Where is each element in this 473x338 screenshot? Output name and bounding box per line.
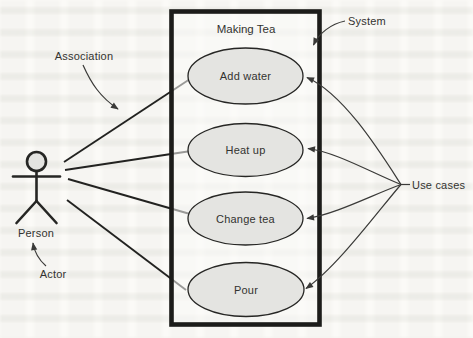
- system-annotation-label: System: [348, 15, 386, 27]
- association-annotation-label: Association: [55, 50, 113, 62]
- use-case-change-tea: Change tea: [188, 192, 303, 245]
- actor-head: [27, 152, 46, 171]
- actor-figure: [13, 152, 60, 223]
- use-case-label-heat-up: Heat up: [226, 144, 266, 156]
- actor-annotation-label: Actor: [40, 268, 67, 280]
- actor-right-leg: [37, 201, 57, 223]
- use-case-add-water: Add water: [188, 48, 303, 104]
- system-title: Making Tea: [217, 23, 276, 35]
- scanned-page: Making Tea Add water Heat up Change tea …: [0, 0, 473, 338]
- association-line-pour: [67, 200, 186, 290]
- association-annotation-arrow: [83, 65, 118, 109]
- use-cases-arrow-heat-up: [308, 149, 401, 185]
- use-cases-annotation-label: Use cases: [412, 179, 465, 191]
- use-case-label-add-water: Add water: [220, 70, 271, 82]
- use-case-label-pour: Pour: [234, 284, 258, 296]
- use-case-label-change-tea: Change tea: [216, 213, 276, 225]
- use-case-diagram: Making Tea Add water Heat up Change tea …: [0, 0, 473, 338]
- use-case-heat-up: Heat up: [188, 124, 303, 177]
- actor-name-label: Person: [18, 227, 54, 239]
- actor-annotation-arrow: [33, 243, 46, 266]
- use-case-pour: Pour: [188, 263, 304, 317]
- actor-left-leg: [17, 201, 37, 223]
